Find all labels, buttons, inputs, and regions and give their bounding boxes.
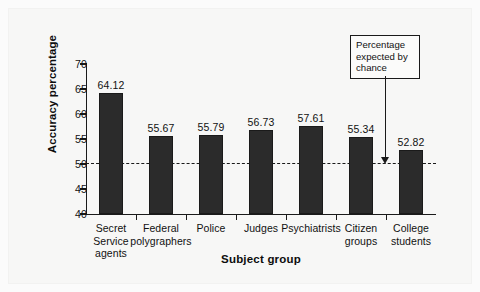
bar — [399, 150, 423, 214]
x-axis-tick — [186, 214, 187, 220]
x-axis-tick — [386, 214, 387, 220]
y-axis-title: Accuracy percentage — [46, 24, 58, 164]
y-axis-tick-label: 45 — [61, 183, 87, 195]
x-axis-tick — [136, 214, 137, 220]
x-axis-tick — [286, 214, 287, 220]
y-axis-tick-label: 70 — [61, 58, 87, 70]
bar — [99, 93, 123, 214]
bar — [199, 135, 223, 214]
y-axis-tick-label: 60 — [61, 108, 87, 120]
chance-annotation-arrow-icon — [381, 157, 389, 164]
x-axis-category-label: College students — [379, 222, 443, 247]
y-axis-tick-label: 40 — [61, 208, 87, 220]
bar-value-label: 55.67 — [136, 122, 186, 134]
chance-annotation-box: Percentage expected by chance — [350, 35, 420, 79]
y-axis-tick-label: 50 — [61, 158, 87, 170]
x-axis-tick — [236, 214, 237, 220]
x-axis-tick — [336, 214, 337, 220]
y-axis-tick-label: 55 — [61, 133, 87, 145]
plot-area: Accuracy percentage Subject group 404550… — [0, 0, 480, 292]
chance-annotation-text: Percentage expected by chance — [356, 39, 408, 73]
chance-annotation-leader-line — [385, 76, 386, 158]
bar-value-label: 55.79 — [186, 121, 236, 133]
y-axis-tick-label: 65 — [61, 83, 87, 95]
bar — [299, 126, 323, 214]
bar-value-label: 64.12 — [86, 79, 136, 91]
bar-value-label: 57.61 — [286, 112, 336, 124]
bar-value-label: 56.73 — [236, 116, 286, 128]
figure-root: Accuracy percentage Subject group 404550… — [0, 0, 480, 292]
bar — [149, 136, 173, 214]
bar — [349, 137, 373, 214]
bar-value-label: 52.82 — [386, 136, 436, 148]
bar-value-label: 55.34 — [336, 123, 386, 135]
bar — [249, 130, 273, 214]
